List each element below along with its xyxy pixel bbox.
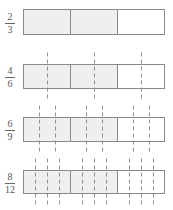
shaded-third xyxy=(71,10,118,35)
shaded-third xyxy=(24,10,71,35)
shaded-third xyxy=(71,118,118,142)
fraction-label-2-3: 2 3 xyxy=(2,12,18,35)
denominator: 9 xyxy=(2,132,18,142)
shaded-third xyxy=(71,171,118,194)
numerator: 8 xyxy=(2,172,18,182)
fraction-label-6-9: 6 9 xyxy=(2,119,18,142)
fraction-label-4-6: 4 6 xyxy=(2,66,18,89)
shaded-third xyxy=(71,65,118,89)
unshaded-third xyxy=(118,171,165,194)
unshaded-third xyxy=(118,118,165,142)
unshaded-third xyxy=(118,10,165,35)
shaded-third xyxy=(24,65,71,89)
denominator: 12 xyxy=(2,185,18,195)
shaded-third xyxy=(24,118,71,142)
shaded-third xyxy=(24,171,71,194)
numerator: 2 xyxy=(2,12,18,22)
fraction-label-8-12: 8 12 xyxy=(2,172,18,195)
denominator: 6 xyxy=(2,79,18,89)
fraction-bars-diagram xyxy=(0,0,173,210)
unshaded-third xyxy=(118,65,165,89)
numerator: 4 xyxy=(2,66,18,76)
numerator: 6 xyxy=(2,119,18,129)
denominator: 3 xyxy=(2,25,18,35)
